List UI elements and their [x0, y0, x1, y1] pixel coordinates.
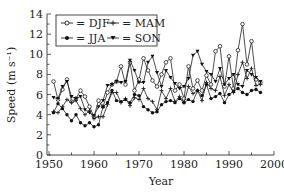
data-point — [254, 88, 257, 91]
data-point — [205, 83, 208, 86]
data-point — [74, 113, 77, 116]
legend-label-mam: = MAM — [122, 17, 165, 30]
data-point — [88, 105, 92, 109]
filled-circle-marker-icon — [65, 36, 69, 40]
data-point — [254, 84, 258, 88]
data-point — [119, 81, 123, 85]
legend-label-jja: = JJA — [76, 32, 107, 45]
data-point — [223, 101, 226, 104]
seasonal-speed-chart: 19501960197019801990200002468101214 = DJ… — [0, 0, 284, 193]
data-point — [214, 80, 218, 84]
data-point — [223, 94, 227, 98]
data-point — [106, 84, 110, 88]
data-point — [52, 80, 56, 84]
data-point — [214, 89, 218, 93]
data-point — [218, 44, 222, 48]
data-point — [205, 70, 209, 74]
data-point — [146, 108, 149, 111]
data-point — [56, 102, 59, 105]
data-point — [191, 54, 195, 58]
data-point — [173, 101, 176, 104]
data-point — [245, 63, 249, 67]
y-tick-label: 2 — [36, 129, 43, 142]
data-point — [106, 101, 109, 104]
data-point — [241, 91, 244, 94]
data-point — [79, 89, 83, 93]
data-point — [115, 91, 119, 95]
y-tick-label: 6 — [36, 89, 43, 102]
y-tick-label: 4 — [36, 109, 43, 122]
data-point — [133, 93, 136, 96]
data-point — [187, 65, 191, 69]
legend-label-djf: = DJF — [76, 17, 110, 30]
data-point — [218, 92, 221, 95]
open-circle-marker-icon — [65, 21, 69, 25]
data-point — [245, 76, 249, 80]
data-point — [160, 89, 164, 93]
legend: = DJF = MAM = JJA = SON — [56, 15, 165, 46]
x-axis-title: Year — [148, 175, 174, 188]
data-point — [61, 107, 64, 110]
data-point — [241, 85, 245, 89]
data-point — [128, 101, 131, 104]
data-point — [218, 67, 222, 71]
data-point — [236, 72, 240, 76]
data-point — [142, 57, 146, 61]
data-point — [182, 101, 185, 104]
data-point — [160, 85, 164, 89]
y-tick-label: 12 — [29, 28, 43, 41]
series-son — [52, 50, 263, 118]
data-point — [110, 89, 113, 92]
y-tick-label: 8 — [36, 68, 43, 81]
data-point — [115, 99, 118, 102]
data-point — [245, 93, 248, 96]
data-point — [164, 61, 168, 65]
data-point — [52, 111, 55, 114]
y-tick-label: 14 — [29, 8, 43, 21]
data-point — [119, 100, 122, 103]
data-point — [151, 79, 155, 83]
x-tick-label: 2000 — [260, 158, 284, 171]
x-tick-label: 1980 — [170, 158, 198, 171]
data-point — [83, 124, 86, 127]
data-point — [200, 63, 204, 66]
data-point — [178, 97, 181, 100]
data-point — [191, 87, 195, 91]
y-tick-label: 10 — [29, 48, 43, 61]
data-point — [196, 79, 200, 83]
data-point — [133, 69, 137, 73]
x-tick-label: 1970 — [125, 158, 153, 171]
data-point — [92, 125, 95, 128]
data-point — [97, 99, 101, 103]
data-point — [137, 94, 140, 97]
x-tick-label: 1960 — [80, 158, 108, 171]
data-point — [164, 100, 167, 103]
y-axis-title: Speed (m s⁻¹) — [5, 47, 18, 124]
data-point — [218, 74, 222, 78]
data-point — [214, 49, 218, 53]
x-tick-label: 1990 — [215, 158, 243, 171]
data-point — [155, 110, 158, 113]
data-point — [241, 60, 245, 64]
data-point — [83, 108, 87, 112]
data-point — [142, 87, 146, 91]
data-point — [200, 99, 204, 103]
data-point — [169, 57, 173, 61]
data-point — [146, 61, 150, 65]
data-point — [236, 48, 240, 52]
data-point — [155, 85, 159, 89]
data-point — [187, 85, 191, 89]
data-point — [250, 39, 254, 43]
data-point — [259, 91, 262, 94]
y-tick-label: 0 — [36, 149, 43, 162]
data-point — [227, 83, 231, 87]
data-point — [106, 91, 110, 95]
data-point — [160, 73, 164, 77]
data-point — [79, 121, 82, 124]
data-point — [155, 71, 159, 75]
data-point — [160, 103, 163, 106]
data-point — [124, 98, 127, 101]
data-point — [227, 55, 231, 59]
data-point — [209, 83, 213, 87]
legend-label-son: = SON — [122, 32, 161, 45]
